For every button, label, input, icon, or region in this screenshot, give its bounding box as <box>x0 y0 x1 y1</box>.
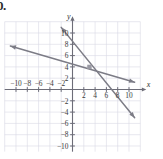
x-axis-label: x <box>146 80 151 89</box>
x-tick-label: −10 <box>10 79 22 88</box>
y-tick-label: 2 <box>65 74 69 83</box>
y-tick-label: −10 <box>57 142 69 151</box>
y-tick-label: −4 <box>61 108 69 117</box>
x-tick-label: 10 <box>125 91 133 100</box>
x-tick-label: −8 <box>23 79 31 88</box>
x-tick-label: −4 <box>46 79 54 88</box>
coordinate-plane: −10−8−6−4−2246810108642−2−4−6−8−10 yx <box>0 0 163 159</box>
y-axis-label: y <box>66 12 71 21</box>
y-tick-label: −2 <box>61 97 69 106</box>
y-tick-label: −8 <box>61 130 69 139</box>
x-tick-label: 6 <box>105 91 109 100</box>
y-tick-label: 6 <box>65 51 69 60</box>
y-tick-label: −6 <box>61 119 69 128</box>
x-tick-label: 2 <box>82 91 86 100</box>
y-tick-label: 10 <box>61 29 69 38</box>
intersection-point-marker <box>87 65 91 69</box>
x-tick-label: −6 <box>35 79 43 88</box>
y-tick-label: 4 <box>65 63 69 72</box>
line-arrowhead-end-shallow-line <box>129 78 135 82</box>
y-tick-label: 8 <box>65 40 69 49</box>
x-tick-label: 4 <box>93 91 97 100</box>
problem-number-label: 0. <box>0 0 6 14</box>
coordinate-plane-svg: −10−8−6−4−2246810108642−2−4−6−8−10 yx <box>0 0 163 159</box>
graph-figure: 0. −10−8−6−4−2246810108642−2−4−6−8−10 yx <box>0 0 163 159</box>
line-arrowhead-start-shallow-line <box>10 45 16 49</box>
intersection-marker-group <box>87 65 91 69</box>
axis-names-group: yx <box>66 12 151 89</box>
x-tick-label: 8 <box>116 91 120 100</box>
